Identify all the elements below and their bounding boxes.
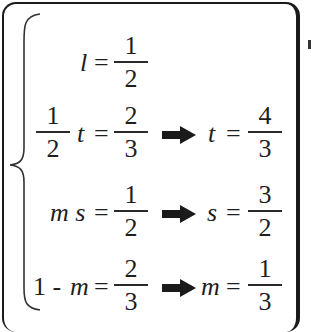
numerator: 1	[114, 182, 148, 210]
denominator: 2	[114, 215, 148, 241]
denominator: 3	[114, 289, 148, 315]
eq1-rhs-fraction: 1 2	[114, 33, 148, 92]
denominator: 3	[248, 136, 282, 162]
eq2-equals: =	[94, 121, 109, 147]
left-brace-icon	[6, 12, 42, 312]
eq3-rhs-fraction: 1 2	[114, 182, 148, 241]
fraction-bar	[114, 284, 148, 286]
eq3-equals: =	[94, 200, 109, 226]
eq4-result-variable: m	[201, 274, 220, 300]
eq2-rhs-fraction: 2 3	[114, 103, 148, 162]
eq2-result-equals: =	[226, 121, 241, 147]
eq2-result-fraction: 4 3	[248, 103, 282, 162]
numerator: 4	[248, 103, 282, 131]
numerator: 2	[114, 256, 148, 284]
eq4-result-fraction: 1 3	[248, 256, 282, 315]
eq4-lhs-variable: m	[70, 274, 89, 300]
implies-arrow-icon	[162, 279, 196, 297]
denominator: 3	[114, 136, 148, 162]
denominator: 2	[114, 66, 148, 92]
fraction-bar	[114, 61, 148, 63]
eq3-result-fraction: 3 2	[248, 182, 282, 241]
fraction-bar	[36, 131, 70, 133]
eq4-equals: =	[94, 274, 109, 300]
eq1-equals: =	[94, 50, 109, 76]
eq2-coef-fraction: 1 2	[36, 103, 70, 162]
eq4-rhs-fraction: 2 3	[114, 256, 148, 315]
fraction-bar	[114, 210, 148, 212]
eq3-lhs-variable: m s	[50, 200, 85, 226]
fraction-bar	[248, 131, 282, 133]
eq2-lhs-variable: t	[77, 121, 84, 147]
implies-arrow-icon	[162, 205, 196, 223]
eq1-lhs-variable: l	[80, 50, 87, 76]
numerator: 1	[114, 33, 148, 61]
implies-arrow-icon	[162, 126, 196, 144]
eq3-result-equals: =	[226, 200, 241, 226]
denominator: 3	[248, 289, 282, 315]
fraction-bar	[248, 284, 282, 286]
fraction-bar	[114, 131, 148, 133]
eq2-result-variable: t	[208, 121, 215, 147]
denominator: 2	[36, 136, 70, 162]
numerator: 2	[114, 103, 148, 131]
eq4-result-equals: =	[226, 274, 241, 300]
eq3-result-variable: s	[207, 200, 217, 226]
fraction-bar	[248, 210, 282, 212]
numerator: 1	[36, 103, 70, 131]
numerator: 3	[248, 182, 282, 210]
eq4-lhs-prefix: 1 -	[33, 274, 61, 300]
numerator: 1	[248, 256, 282, 284]
denominator: 2	[248, 215, 282, 241]
margin-mark	[308, 40, 311, 49]
